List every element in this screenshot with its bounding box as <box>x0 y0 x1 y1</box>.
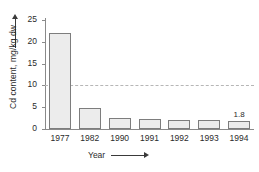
y-tick-label: 5 <box>32 101 37 111</box>
bar-value-label-1994: 1.8 <box>219 110 259 119</box>
x-tick-label-1977: 1977 <box>44 133 76 143</box>
x-axis-arrow-line <box>111 155 145 156</box>
y-tick-mark <box>42 42 46 43</box>
bar-1993 <box>198 120 220 129</box>
cd-content-bar-chart: Cd content, mg/kg dw 0510152025 1.8 1977… <box>0 0 259 172</box>
bar-1994 <box>228 121 250 129</box>
x-tick-label-1991: 1991 <box>134 133 166 143</box>
y-tick-label: 10 <box>28 79 37 89</box>
x-axis-title-group: Year <box>88 148 145 162</box>
y-tick-label: 20 <box>28 36 37 46</box>
x-tick-label-1992: 1992 <box>163 133 195 143</box>
y-axis-title: Cd content, mg/kg dw <box>8 11 18 123</box>
x-tick-label-1993: 1993 <box>193 133 225 143</box>
reference-line <box>45 85 254 86</box>
y-tick-label: 15 <box>28 58 37 68</box>
x-tick-label-1994: 1994 <box>223 133 255 143</box>
bar-1977 <box>49 33 71 129</box>
x-axis-line <box>45 129 254 130</box>
y-tick-mark <box>42 107 46 108</box>
bar-1982 <box>79 108 101 129</box>
x-tick-label-1990: 1990 <box>104 133 136 143</box>
y-tick-mark <box>42 64 46 65</box>
y-tick-mark <box>42 20 46 21</box>
y-tick-mark <box>42 129 46 130</box>
y-axis-title-group: Cd content, mg/kg dw <box>0 0 26 140</box>
arrow-right-icon <box>144 152 149 158</box>
y-axis-line <box>45 18 46 130</box>
bar-1992 <box>168 120 190 129</box>
bar-1991 <box>139 119 161 129</box>
x-tick-label-1982: 1982 <box>74 133 106 143</box>
bar-1990 <box>109 118 131 129</box>
x-axis-title: Year <box>88 150 105 160</box>
y-tick-label: 25 <box>28 14 37 24</box>
y-tick-label: 0 <box>32 123 37 133</box>
